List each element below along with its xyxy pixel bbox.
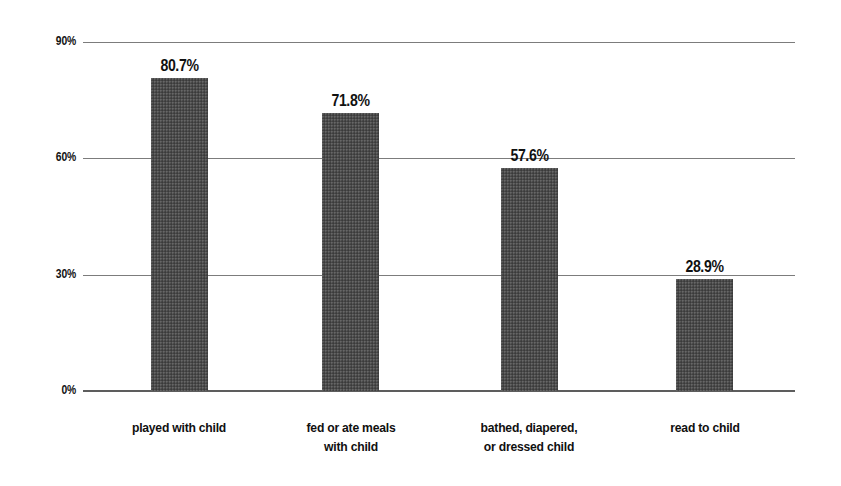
bar-value-fed-or-ate-meals-with-child: 71.8% [304, 92, 396, 110]
x-category-label-fed-or-ate-meals-with-child: fed or ate meals with child [266, 418, 437, 456]
y-tick-label-30: 30% [24, 267, 76, 281]
plot-area: 80.7% 71.8% 57.6% 28.9% [83, 42, 795, 391]
bar-value-played-with-child: 80.7% [133, 57, 225, 75]
bar-value-read-to-child: 28.9% [658, 258, 750, 276]
x-category-line-1: read to child [670, 420, 739, 435]
x-category-label-bathed-diapered-or-dressed-child: bathed, diapered, or dressed child [444, 418, 615, 456]
bar-fed-or-ate-meals-with-child[interactable]: 71.8% [322, 113, 379, 391]
x-category-line-2: or dressed child [444, 437, 615, 456]
bar-played-with-child[interactable]: 80.7% [151, 78, 208, 391]
x-category-line-1: bathed, diapered, [481, 420, 578, 435]
x-category-label-read-to-child: read to child [620, 418, 791, 437]
y-tick-label-60: 60% [24, 150, 76, 164]
bar-chart: 90% 60% 30% 0% 80.7% 71.8% 57.6% [0, 0, 841, 486]
y-tick-label-90: 90% [24, 34, 76, 48]
x-category-line-2: with child [266, 437, 437, 456]
x-category-line-1: played with child [132, 420, 226, 435]
x-category-line-1: fed or ate meals [307, 420, 396, 435]
bar-value-bathed-diapered-or-dressed-child: 57.6% [483, 147, 575, 165]
bar-bathed-diapered-or-dressed-child[interactable]: 57.6% [501, 168, 558, 391]
bar-read-to-child[interactable]: 28.9% [676, 279, 733, 391]
y-axis: 90% 60% 30% 0% [0, 42, 76, 391]
gridline-90 [83, 42, 795, 43]
y-tick-label-0: 0% [24, 383, 76, 397]
x-category-label-played-with-child: played with child [94, 418, 265, 437]
